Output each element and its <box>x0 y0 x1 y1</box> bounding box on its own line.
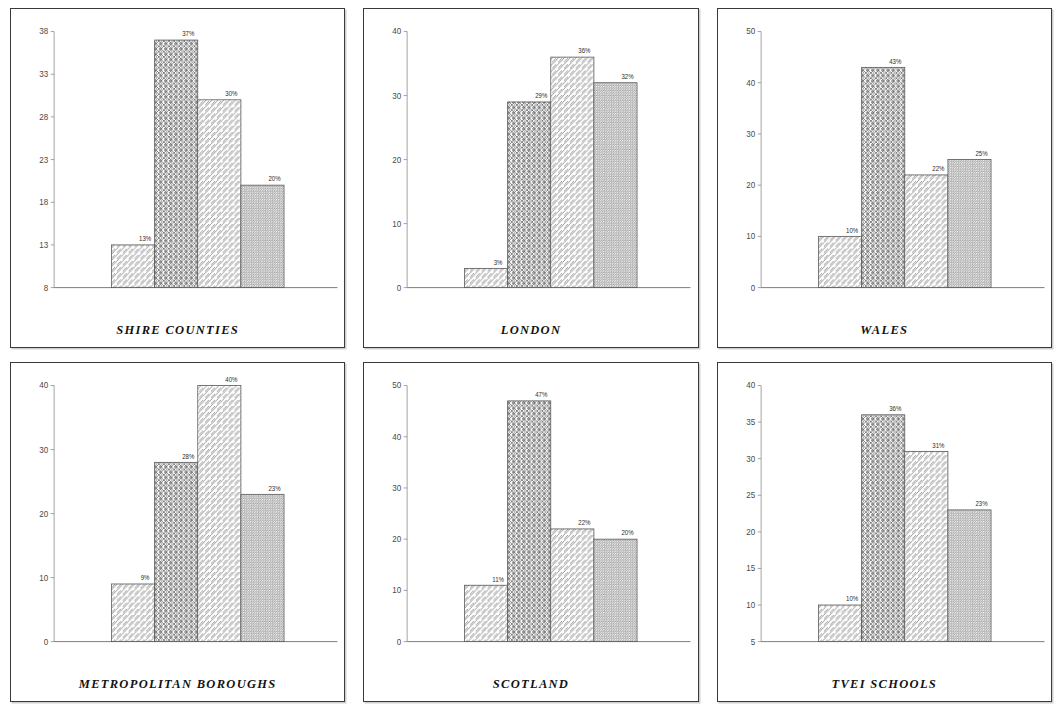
plot-tvei-schools: 51015202530354010%36%31%23% <box>718 363 1051 701</box>
bar-value-label: 22% <box>932 165 945 172</box>
bar <box>818 605 861 642</box>
plot-metropolitan-boroughs: 0102030409%28%40%23% <box>11 363 344 701</box>
y-tick-label: 38 <box>39 27 48 36</box>
y-tick-label: 40 <box>393 27 402 36</box>
panel-scotland: 0102030405011%47%22%20% SCOTLAND <box>363 362 698 702</box>
y-tick-label: 20 <box>393 535 402 544</box>
y-tick-label: 20 <box>746 181 755 190</box>
y-tick-label: 30 <box>39 445 48 454</box>
y-tick-label: 10 <box>746 232 755 241</box>
bar-value-label: 28% <box>182 453 195 460</box>
bar <box>861 415 904 642</box>
y-tick-label: 35 <box>746 418 755 427</box>
bar <box>594 83 637 288</box>
bar <box>861 67 904 287</box>
y-tick-label: 5 <box>750 637 755 646</box>
bar <box>551 57 594 287</box>
bar <box>551 529 594 642</box>
bar-value-label: 3% <box>494 259 503 266</box>
y-tick-label: 33 <box>39 70 48 79</box>
y-tick-label: 10 <box>39 573 48 582</box>
y-tick-label: 13 <box>39 241 48 250</box>
panel-shire-counties: 813182328333813%37%30%20% SHIRE COUNTIES <box>10 8 345 348</box>
y-tick-label: 20 <box>393 155 402 164</box>
y-tick-label: 0 <box>44 637 49 646</box>
bar <box>198 386 241 642</box>
bar-value-label: 13% <box>139 235 152 242</box>
y-tick-label: 30 <box>393 484 402 493</box>
y-tick-label: 30 <box>393 91 402 100</box>
bar-value-label: 43% <box>889 58 902 65</box>
y-tick-label: 25 <box>746 491 755 500</box>
bar <box>465 268 508 287</box>
y-tick-label: 50 <box>746 27 755 36</box>
bar-value-label: 37% <box>182 30 195 37</box>
y-tick-label: 0 <box>750 283 755 292</box>
panel-tvei-schools: 51015202530354010%36%31%23% TVEI SCHOOLS <box>717 362 1052 702</box>
y-tick-label: 40 <box>746 381 755 390</box>
bar-value-label: 23% <box>975 500 988 507</box>
bar-value-label: 32% <box>622 73 635 80</box>
bar-value-label: 40% <box>225 376 238 383</box>
bar <box>594 539 637 641</box>
panel-london: 0102030403%29%36%32% LONDON <box>363 8 698 348</box>
y-tick-label: 40 <box>393 433 402 442</box>
plot-shire-counties: 813182328333813%37%30%20% <box>11 9 344 347</box>
bar-value-label: 10% <box>846 595 859 602</box>
bar-value-label: 36% <box>889 405 902 412</box>
bar <box>111 584 154 642</box>
bar <box>948 510 991 642</box>
bar-value-label: 22% <box>579 519 592 526</box>
y-tick-label: 18 <box>39 198 48 207</box>
y-tick-label: 20 <box>39 509 48 518</box>
chart-grid: 813182328333813%37%30%20% SHIRE COUNTIES… <box>0 0 1062 712</box>
bar <box>948 160 991 288</box>
y-tick-label: 10 <box>393 219 402 228</box>
bar <box>241 494 284 641</box>
bar-value-label: 10% <box>846 227 859 234</box>
bar <box>904 175 947 288</box>
bar <box>155 462 198 641</box>
bar-value-label: 20% <box>268 175 281 182</box>
bar-value-label: 36% <box>579 47 592 54</box>
bar-value-label: 11% <box>493 575 505 582</box>
bar-value-label: 29% <box>536 92 549 99</box>
bar-value-label: 9% <box>141 574 150 581</box>
bar <box>904 451 947 641</box>
plot-scotland: 0102030405011%47%22%20% <box>364 363 697 701</box>
bar <box>508 401 551 642</box>
bar <box>155 40 198 288</box>
panel-wales: 0102030405010%43%22%25% WALES <box>717 8 1052 348</box>
y-tick-label: 30 <box>746 130 755 139</box>
y-tick-label: 23 <box>39 155 48 164</box>
bar-value-label: 30% <box>225 90 238 97</box>
y-tick-label: 0 <box>397 637 402 646</box>
y-tick-label: 30 <box>746 455 755 464</box>
y-tick-label: 10 <box>393 586 402 595</box>
y-tick-label: 15 <box>746 564 755 573</box>
plot-wales: 0102030405010%43%22%25% <box>718 9 1051 347</box>
bar <box>198 100 241 288</box>
bar-value-label: 23% <box>268 485 281 492</box>
y-tick-label: 10 <box>746 601 755 610</box>
plot-london: 0102030403%29%36%32% <box>364 9 697 347</box>
y-tick-label: 8 <box>44 283 49 292</box>
bar-value-label: 20% <box>622 529 635 536</box>
bar-value-label: 31% <box>932 442 945 449</box>
bar-value-label: 47% <box>536 391 549 398</box>
bar <box>818 236 861 287</box>
y-tick-label: 40 <box>39 381 48 390</box>
panel-metropolitan-boroughs: 0102030409%28%40%23% METROPOLITAN BOROUG… <box>10 362 345 702</box>
bar <box>241 185 284 287</box>
y-tick-label: 20 <box>746 528 755 537</box>
bar <box>111 245 154 288</box>
y-tick-label: 28 <box>39 113 48 122</box>
bar <box>465 585 508 641</box>
y-tick-label: 50 <box>393 381 402 390</box>
y-tick-label: 0 <box>397 283 402 292</box>
y-tick-label: 40 <box>746 79 755 88</box>
bar <box>508 102 551 288</box>
bar-value-label: 25% <box>975 150 988 157</box>
